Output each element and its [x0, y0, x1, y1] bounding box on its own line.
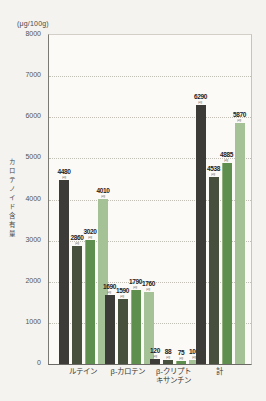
- bar-chart: (μg/100g) カロテノイド含有量 01000200030004000500…: [0, 0, 266, 401]
- bar: [176, 361, 186, 364]
- bar-value-footnote-mark: μg: [166, 356, 170, 359]
- bar-value-footnote-mark: μg: [153, 354, 157, 357]
- bar-column: 4538μg: [209, 165, 219, 364]
- bar-column: 3020μg: [85, 228, 95, 364]
- bar-value-footnote-mark: μg: [108, 290, 112, 293]
- y-tick-label: 0: [11, 359, 41, 366]
- bar-column: 4885μg: [222, 151, 232, 364]
- bar-column: 5870μg: [235, 111, 245, 364]
- bar-value-footnote-mark: μg: [212, 173, 216, 176]
- bar-value-footnote-mark: μg: [101, 194, 105, 197]
- bar-value-footnote-mark: μg: [134, 286, 138, 289]
- bar: [222, 163, 232, 364]
- bar: [209, 177, 219, 364]
- bar-value-footnote-mark: μg: [88, 235, 92, 238]
- y-tick-label: 4000: [11, 195, 41, 202]
- bar: [163, 360, 173, 364]
- bar-column: 4480μg: [59, 168, 69, 364]
- bar-value-footnote-mark: μg: [225, 158, 229, 161]
- bar-column: 6290μg: [196, 93, 206, 364]
- bar-group: 6290μg4538μg4885μg5870μg: [196, 93, 245, 364]
- bar-value-footnote-mark: μg: [179, 356, 183, 359]
- y-tick-label: 2000: [11, 277, 41, 284]
- bar-value-label: 1690: [103, 283, 116, 290]
- y-tick-label: 1000: [11, 318, 41, 325]
- bar-value-footnote-mark: μg: [238, 118, 242, 121]
- bar-group: 1690μg1590μg1790μg1760μg: [105, 278, 154, 364]
- bar: [105, 295, 115, 365]
- bar-value-footnote-mark: μg: [121, 294, 125, 297]
- bar: [118, 299, 128, 364]
- bar-value-footnote-mark: μg: [62, 175, 66, 178]
- bar-column: 88μg: [163, 348, 173, 364]
- y-tick-label: 5000: [11, 153, 41, 160]
- bar-column: 1690μg: [105, 283, 115, 365]
- bar-value-footnote-mark: μg: [147, 287, 151, 290]
- bar: [131, 290, 141, 364]
- bar: [85, 240, 95, 364]
- bar-column: 75μg: [176, 349, 186, 364]
- bar-column: 1590μg: [118, 287, 128, 364]
- bar-column: 1790μg: [131, 278, 141, 364]
- y-tick-label: 3000: [11, 236, 41, 243]
- plot-area: 4480μg2860μg3020μg4010μg1690μg1590μg1790…: [48, 34, 252, 365]
- bar: [72, 246, 82, 364]
- bar-value-footnote-mark: μg: [199, 101, 203, 104]
- bar: [59, 180, 69, 364]
- y-tick-label: 6000: [11, 112, 41, 119]
- bar-column: 120μg: [150, 347, 160, 364]
- bar-column: 2860μg: [72, 234, 82, 364]
- x-category-label: 計: [184, 367, 254, 376]
- bar-group: 120μg88μg75μg100μg: [150, 347, 199, 364]
- bar-group: 4480μg2860μg3020μg4010μg: [59, 168, 108, 364]
- bar: [196, 105, 206, 364]
- gridline: [49, 76, 251, 77]
- y-tick-label: 7000: [11, 71, 41, 78]
- unit-label: (μg/100g): [17, 20, 49, 27]
- bar: [235, 123, 245, 364]
- bar: [150, 359, 160, 364]
- bar-value-footnote-mark: μg: [75, 242, 79, 245]
- y-tick-label: 8000: [11, 30, 41, 37]
